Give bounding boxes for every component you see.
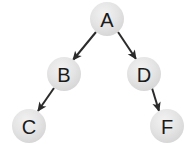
tree-diagram: A B D C F [0, 0, 195, 154]
tree-node-d[interactable]: D [127, 57, 161, 91]
node-group: A B D C F [12, 2, 184, 143]
edge-a-to-d [118, 32, 136, 59]
node-d-label: D [137, 64, 151, 86]
tree-diagram-canvas: A B D C F [0, 0, 195, 154]
node-b-label: B [57, 64, 70, 86]
node-a-label: A [100, 9, 114, 31]
tree-node-b[interactable]: B [47, 57, 81, 91]
tree-node-f[interactable]: F [150, 109, 184, 143]
tree-node-a[interactable]: A [90, 2, 124, 36]
edge-d-to-f [152, 88, 159, 111]
edge-b-to-c [38, 88, 54, 111]
node-f-label: F [161, 116, 173, 138]
edge-a-to-b [73, 32, 96, 60]
tree-node-c[interactable]: C [12, 109, 46, 143]
node-c-label: C [22, 116, 36, 138]
